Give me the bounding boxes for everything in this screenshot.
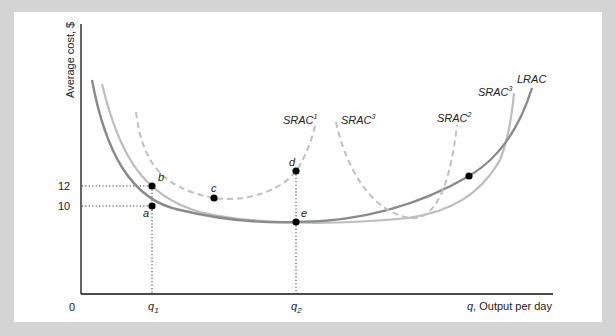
label-srac3-mid: SRAC3 xyxy=(341,113,376,126)
label-srac3: SRAC3 xyxy=(478,85,513,98)
srac2-curve xyxy=(336,122,457,218)
point-a xyxy=(148,202,155,209)
label-srac1: SRAC1 xyxy=(283,113,318,126)
point-b xyxy=(148,182,155,189)
y-tick-10: 10 xyxy=(58,200,70,212)
point-d xyxy=(292,167,299,174)
point-label-a: a xyxy=(143,207,149,219)
label-srac2: SRAC2 xyxy=(437,111,472,124)
lrac-curve xyxy=(92,80,532,222)
y-tick-12: 12 xyxy=(58,180,70,192)
point-label-c: c xyxy=(211,182,217,194)
point-label-d: d xyxy=(289,156,296,168)
x-axis-label: q, Output per day xyxy=(467,300,553,312)
chart-svg: Average cost, $ 12 10 0 q1 q2 q, Output … xyxy=(0,0,615,336)
label-lrac: LRAC xyxy=(517,73,546,85)
point-e xyxy=(292,218,299,225)
x-tick-0: 0 xyxy=(69,301,75,313)
y-axis-label: Average cost, $ xyxy=(64,22,76,98)
point-c xyxy=(210,194,217,201)
point-tangency xyxy=(465,172,472,179)
point-label-b: b xyxy=(158,171,164,183)
x-tick-q1: q1 xyxy=(148,300,159,315)
point-label-e: e xyxy=(301,207,307,219)
x-tick-q2: q2 xyxy=(291,300,302,315)
